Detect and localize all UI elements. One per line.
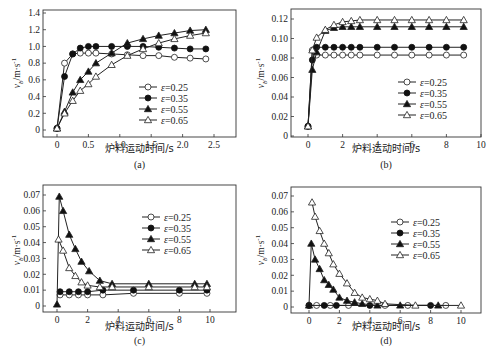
- filled-circle-marker: [340, 44, 346, 50]
- filled-circle-marker: [374, 44, 380, 50]
- y-tick-label: 0.05: [23, 222, 40, 232]
- panel-a: 00.20.40.60.81.01.21.400.51.01.52.02.5炉料…: [10, 8, 236, 171]
- open-circle-marker: [156, 53, 162, 59]
- filled-circle-marker: [321, 302, 327, 308]
- legend-item: ε=0.35: [391, 228, 440, 239]
- open-triangle-marker: [308, 199, 315, 205]
- y-tick-label: 0.02: [271, 271, 288, 281]
- y-tick-label: 1.2: [28, 25, 40, 35]
- y-tick-label: 0.02: [23, 270, 40, 280]
- open-triangle-marker: [330, 261, 337, 267]
- y-tick-label: 0.04: [271, 92, 288, 102]
- open-circle-marker: [145, 84, 151, 90]
- open-triangle-marker: [92, 73, 99, 79]
- y-tick-label: 0.4: [28, 92, 40, 102]
- filled-circle-marker: [57, 289, 63, 295]
- legend-label: ε=0.35: [161, 93, 188, 104]
- x-tick-label: 2.0: [177, 140, 189, 150]
- legend-item: ε=0.35: [398, 88, 447, 99]
- filled-circle-marker: [145, 95, 151, 101]
- x-tick-label: 10: [476, 140, 486, 150]
- legend-item: ε=0.25: [391, 217, 440, 228]
- legend-item: ε=0.65: [142, 245, 191, 256]
- legend: ε=0.25ε=0.35ε=0.55ε=0.65: [142, 212, 191, 256]
- legend-label: ε=0.55: [161, 104, 188, 115]
- filled-circle-marker: [131, 287, 137, 293]
- legend-item: ε=0.65: [398, 110, 447, 121]
- open-triangle-marker: [316, 227, 323, 233]
- legend-label: ε=0.25: [161, 82, 188, 93]
- open-circle-marker: [322, 52, 328, 58]
- legend-item: ε=0.25: [139, 82, 188, 93]
- panel-caption: (a): [134, 159, 145, 171]
- legend-label: ε=0.55: [420, 99, 447, 110]
- filled-circle-marker: [70, 51, 76, 57]
- legend-label: ε=0.65: [420, 110, 447, 121]
- x-axis-label: 炉料运动时间/s: [352, 142, 421, 154]
- filled-circle-marker: [62, 74, 68, 80]
- y-tick-label: 0.03: [271, 255, 288, 265]
- open-circle-marker: [148, 214, 154, 220]
- filled-triangle-marker: [316, 265, 323, 271]
- filled-triangle-marker: [78, 258, 85, 264]
- filled-triangle-marker: [56, 193, 63, 199]
- filled-circle-marker: [392, 44, 398, 50]
- legend-label: ε=0.65: [161, 115, 188, 126]
- y-tick-label: 0: [283, 131, 288, 141]
- open-circle-marker: [426, 52, 432, 58]
- filled-circle-marker: [176, 287, 182, 293]
- filled-triangle-marker: [72, 245, 79, 251]
- filled-circle-marker: [404, 90, 410, 96]
- panel-b: 00.020.040.060.080.100.120246810炉料运动时间/s…: [254, 9, 486, 171]
- open-circle-marker: [409, 52, 415, 58]
- legend-item: ε=0.55: [398, 99, 447, 110]
- x-tick-label: 0: [307, 316, 312, 326]
- legend: ε=0.25ε=0.35ε=0.55ε=0.65: [398, 77, 447, 121]
- open-triangle-marker: [55, 236, 62, 242]
- y-tick-label: 0.08: [271, 53, 288, 63]
- y-tick-label: 0.07: [23, 190, 40, 200]
- filled-triangle-marker: [60, 207, 67, 213]
- open-circle-marker: [340, 52, 346, 58]
- open-circle-marker: [461, 52, 467, 58]
- legend-label: ε=0.65: [413, 250, 440, 261]
- x-axis-label: 炉料运动时间/s: [352, 320, 421, 332]
- open-circle-marker: [140, 53, 146, 59]
- y-tick-label: 0.12: [271, 14, 288, 24]
- open-circle-marker: [62, 60, 68, 66]
- filled-triangle-marker: [308, 240, 315, 246]
- filled-circle-marker: [367, 302, 373, 308]
- filled-triangle-marker: [321, 276, 328, 282]
- x-tick-label: 0: [55, 315, 60, 325]
- filled-circle-marker: [397, 230, 403, 236]
- filled-circle-marker: [443, 44, 449, 50]
- open-triangle-marker: [359, 294, 366, 300]
- legend: ε=0.25ε=0.35ε=0.55ε=0.65: [139, 82, 188, 126]
- y-tick-label: 0.04: [23, 238, 40, 248]
- y-tick-label: 0.04: [271, 239, 288, 249]
- x-tick-label: 2: [340, 140, 345, 150]
- y-axis-label: vb/m·s-1: [254, 234, 269, 265]
- open-triangle-marker: [325, 249, 332, 255]
- open-circle-marker: [397, 219, 403, 225]
- legend-item: ε=0.65: [391, 250, 440, 261]
- legend-item: ε=0.55: [142, 234, 191, 245]
- x-tick-label: 8: [428, 316, 433, 326]
- y-tick-label: 0.06: [23, 206, 40, 216]
- y-tick-label: 0: [35, 301, 40, 311]
- legend-label: ε=0.55: [164, 234, 191, 245]
- filled-circle-marker: [85, 43, 91, 49]
- filled-circle-marker: [93, 43, 99, 49]
- legend-item: ε=0.55: [391, 239, 440, 250]
- y-tick-label: 0.8: [28, 58, 40, 68]
- y-tick-label: 1.4: [28, 8, 40, 18]
- plot-frame: [291, 187, 481, 313]
- y-tick-label: 1.0: [28, 42, 40, 52]
- open-triangle-marker: [336, 270, 343, 276]
- x-tick-label: 2: [337, 316, 342, 326]
- legend-item: ε=0.25: [142, 212, 191, 223]
- filled-triangle-marker: [311, 256, 318, 262]
- x-tick-label: 8: [177, 315, 182, 325]
- filled-triangle-marker: [66, 231, 73, 237]
- filled-triangle-marker: [309, 66, 316, 72]
